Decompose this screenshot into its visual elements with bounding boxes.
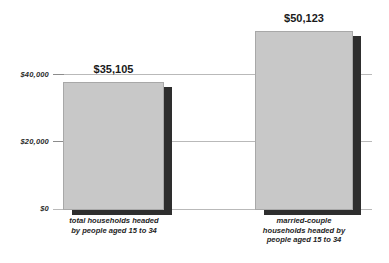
bar-value-label-1: $35,105 — [63, 63, 164, 75]
bar-face-1[interactable] — [63, 82, 164, 210]
category-caption-1: total households headed by people aged 1… — [39, 216, 189, 235]
bar-chart: $40,000 $20,000 $0 $35,105 total househo… — [0, 0, 389, 263]
bar-group-married-couple — [255, 31, 361, 215]
bar-group-total-households — [63, 82, 173, 215]
ytick-label-20000: $20,000 — [0, 137, 49, 146]
bar-face-2[interactable] — [255, 31, 353, 210]
bar-value-label-2: $50,123 — [255, 12, 353, 24]
ytick-label-40000: $40,000 — [0, 70, 49, 79]
category-caption-2: married-couple households headed by peop… — [229, 216, 379, 245]
ytick-label-0: $0 — [0, 204, 49, 213]
